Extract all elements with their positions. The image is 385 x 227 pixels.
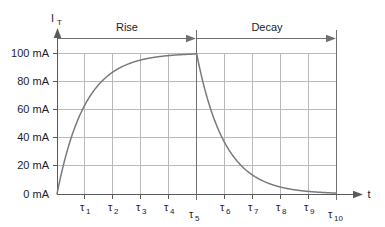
x-tick-label-tau2-base: τ xyxy=(108,201,113,213)
x-tick-label-tau1-base: τ xyxy=(80,201,85,213)
y-tick-label-40: 40 mA xyxy=(17,131,49,143)
rc-current-waveform-chart: 100 mA 80 mA 60 mA 40 mA 20 mA 0 mA I T … xyxy=(0,0,385,227)
decay-label: Decay xyxy=(251,21,283,33)
y-tick-label-80: 80 mA xyxy=(17,75,49,87)
x-tick-label-tau4-base: τ xyxy=(164,201,169,213)
x-tick-label-tau8-sub: 8 xyxy=(282,207,287,216)
x-tick-label-tau5-base: τ xyxy=(189,208,194,220)
x-tick-label-tau10-base: τ xyxy=(328,208,333,220)
x-tick-label-tau8-base: τ xyxy=(276,201,281,213)
y-tick-label-100: 100 mA xyxy=(11,47,50,59)
y-axis-title-subscript: T xyxy=(57,18,62,27)
x-tick-label-tau7-base: τ xyxy=(248,201,253,213)
x-axis-title: t xyxy=(367,188,370,200)
y-tick-label-60: 60 mA xyxy=(17,103,49,115)
chart-figure: 100 mA 80 mA 60 mA 40 mA 20 mA 0 mA I T … xyxy=(0,0,385,227)
x-tick-label-tau7-sub: 7 xyxy=(254,207,259,216)
x-tick-label-tau9-base: τ xyxy=(304,201,309,213)
rise-label: Rise xyxy=(116,21,138,33)
y-tick-label-0: 0 mA xyxy=(23,188,49,200)
x-tick-label-tau10-sub: 10 xyxy=(334,214,343,223)
x-tick-label-tau1-sub: 1 xyxy=(86,207,91,216)
x-tick-label-tau6-base: τ xyxy=(220,201,225,213)
x-tick-label-tau2-sub: 2 xyxy=(114,207,119,216)
y-axis-title-base: I xyxy=(51,12,54,24)
x-tick-label-tau9-sub: 9 xyxy=(310,207,315,216)
x-tick-label-tau4-sub: 4 xyxy=(170,207,175,216)
x-tick-label-tau5-sub: 5 xyxy=(195,214,200,223)
x-tick-label-tau3-base: τ xyxy=(136,201,141,213)
x-tick-label-tau6-sub: 6 xyxy=(226,207,231,216)
x-tick-label-tau3-sub: 3 xyxy=(142,207,147,216)
y-tick-label-20: 20 mA xyxy=(17,159,49,171)
